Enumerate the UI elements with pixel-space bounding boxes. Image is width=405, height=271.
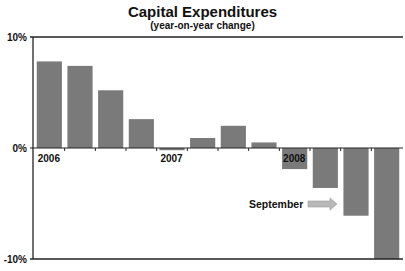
bar	[37, 61, 62, 148]
y-tick-label: 0%	[13, 143, 28, 154]
annotation-label: September	[249, 198, 303, 210]
bar	[251, 142, 276, 148]
bar-chart: 10%0%-10%200620072008September	[0, 0, 405, 271]
bar	[374, 148, 399, 259]
y-tick-label: 10%	[7, 32, 27, 43]
x-year-label: 2007	[160, 153, 183, 164]
bar	[343, 148, 368, 216]
right-arrow-icon	[308, 198, 337, 210]
bar	[98, 90, 123, 148]
bar	[313, 148, 338, 188]
bar	[129, 119, 154, 148]
bar	[67, 66, 92, 148]
y-tick-label: -10%	[4, 254, 27, 265]
x-year-label: 2008	[283, 153, 306, 164]
bar	[190, 138, 215, 148]
bar	[221, 126, 246, 148]
x-year-label: 2006	[38, 153, 61, 164]
